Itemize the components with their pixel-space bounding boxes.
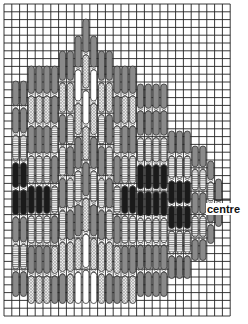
stitch-grey bbox=[91, 203, 97, 236]
stitch-black bbox=[169, 204, 175, 229]
stitch-striped bbox=[145, 216, 151, 242]
stitch-grey bbox=[161, 84, 167, 108]
stitch-dotted bbox=[114, 244, 120, 274]
stitch-grey bbox=[13, 215, 19, 242]
stitch-grey bbox=[153, 84, 159, 108]
stitch-grey bbox=[52, 154, 58, 184]
centre-label: centre bbox=[206, 203, 241, 215]
stitch-grey bbox=[75, 36, 81, 67]
stitch-grey bbox=[106, 113, 112, 144]
stitch-grey bbox=[137, 84, 143, 108]
stitch-dotted bbox=[130, 274, 136, 304]
stitch-black bbox=[184, 204, 190, 229]
stitch-grey bbox=[83, 161, 89, 196]
stitch-striped bbox=[67, 113, 73, 144]
stitch-black bbox=[13, 188, 19, 215]
stitch-grey bbox=[59, 177, 65, 208]
stitch-striped bbox=[52, 184, 58, 214]
stitch-grey bbox=[137, 243, 143, 269]
stitch-white bbox=[83, 232, 89, 267]
stitch-grey bbox=[36, 124, 42, 154]
stitch-striped bbox=[20, 134, 26, 161]
stitch-black bbox=[161, 163, 167, 189]
stitch-striped bbox=[184, 154, 190, 179]
stitch-grey bbox=[98, 208, 104, 239]
stitch-dotted bbox=[106, 81, 112, 112]
stitch-black bbox=[153, 163, 159, 189]
stitch-black bbox=[137, 163, 143, 189]
stitch-black bbox=[36, 184, 42, 214]
stitch-grey bbox=[13, 270, 19, 297]
stitch-striped bbox=[169, 229, 175, 254]
stitch-grey bbox=[67, 145, 73, 176]
stitch-dotted bbox=[75, 102, 81, 135]
stitch-grey bbox=[208, 161, 214, 180]
stitch-grey bbox=[192, 146, 198, 167]
stitch-striped bbox=[192, 214, 198, 237]
stitch-grey bbox=[98, 51, 104, 80]
stitch-dotted bbox=[122, 274, 128, 304]
stitch-dotted bbox=[91, 102, 97, 135]
stitch-striped bbox=[145, 136, 151, 162]
stitch-black bbox=[130, 184, 136, 214]
stitch-grey bbox=[75, 135, 81, 168]
stitch-grey bbox=[137, 109, 143, 135]
stitch-striped bbox=[13, 134, 19, 161]
stitch-grey bbox=[36, 244, 42, 274]
stitch-grey bbox=[91, 135, 97, 168]
stitch-grey bbox=[130, 66, 136, 94]
stitch-grey bbox=[200, 238, 206, 261]
stitch-white bbox=[83, 268, 89, 303]
stitch-striped bbox=[184, 229, 190, 254]
stitch-chart bbox=[0, 0, 248, 324]
stitch-grey bbox=[114, 274, 120, 304]
stitch-grey bbox=[161, 109, 167, 135]
stitch-black bbox=[122, 184, 128, 214]
stitch-dotted bbox=[67, 272, 73, 303]
stitch-dotted bbox=[83, 125, 89, 160]
stitch-striped bbox=[122, 214, 128, 244]
stitch-grey bbox=[59, 272, 65, 303]
stitch-grey bbox=[52, 66, 58, 94]
stitch-grey bbox=[83, 19, 89, 52]
stitch-grey bbox=[106, 272, 112, 303]
stitch-grey bbox=[98, 145, 104, 176]
stitch-grey bbox=[106, 51, 112, 80]
stitch-dotted bbox=[98, 272, 104, 303]
stitch-striped bbox=[106, 208, 112, 239]
stitch-grey bbox=[122, 66, 128, 94]
stitch-dotted bbox=[59, 81, 65, 112]
stitch-dotted bbox=[67, 81, 73, 112]
stitch-dotted bbox=[122, 94, 128, 124]
stitch-striped bbox=[130, 214, 136, 244]
stitch-grey bbox=[153, 109, 159, 135]
stitch-dotted bbox=[59, 240, 65, 271]
stitch-grey bbox=[114, 214, 120, 244]
stitch-striped bbox=[130, 154, 136, 184]
stitch-striped bbox=[44, 154, 50, 184]
stitch-grey bbox=[13, 106, 19, 133]
stitch-grey bbox=[44, 244, 50, 274]
stitch-grey bbox=[20, 106, 26, 133]
stitch-grey bbox=[20, 215, 26, 242]
stitch-striped bbox=[176, 154, 182, 179]
stitch-grey bbox=[106, 177, 112, 208]
stitch-dotted bbox=[28, 274, 34, 304]
stitch-grey bbox=[44, 66, 50, 94]
stitch-striped bbox=[114, 184, 120, 214]
stitch-white bbox=[75, 68, 81, 101]
stitch-white bbox=[91, 68, 97, 101]
stitch-grey bbox=[169, 254, 175, 279]
stitch-grey bbox=[215, 179, 221, 202]
stitch-grey bbox=[28, 124, 34, 154]
stitch-black bbox=[169, 179, 175, 204]
stitch-grey bbox=[145, 84, 151, 108]
stitch-grey bbox=[28, 244, 34, 274]
stitch-grey bbox=[208, 223, 214, 244]
stitch-white bbox=[91, 270, 97, 303]
stitch-dotted bbox=[44, 274, 50, 304]
stitch-grey bbox=[130, 124, 136, 154]
stitch-grey bbox=[122, 124, 128, 154]
stitch-striped bbox=[59, 208, 65, 239]
stitch-striped bbox=[153, 136, 159, 162]
